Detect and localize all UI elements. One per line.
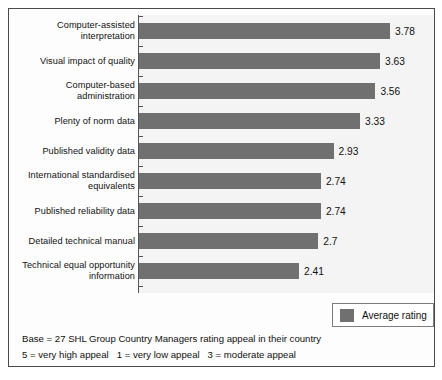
bar-value-label: 2.93: [339, 146, 359, 157]
axis-tick: [138, 256, 143, 257]
category-label: International standardised equivalents: [9, 170, 135, 191]
bar-row: Published validity data2.93: [9, 136, 434, 166]
category-label: Visual impact of quality: [9, 56, 135, 67]
chart-legend: Average rating: [332, 303, 434, 327]
chart-figure: Computer-assisted interpretation3.78Visu…: [8, 8, 435, 367]
bar: [139, 203, 321, 219]
bar: [139, 83, 375, 99]
bar: [139, 263, 299, 279]
bar-row: Plenty of norm data3.33: [9, 106, 434, 136]
bar: [139, 233, 318, 249]
category-label: Technical equal opportunity information: [9, 260, 135, 281]
bar-row: Published reliability data2.74: [9, 196, 434, 226]
bar-value-label: 2.41: [304, 266, 324, 277]
bar-value-label: 2.74: [326, 206, 346, 217]
bar-row: Detailed technical manual2.7: [9, 226, 434, 256]
bar-value-label: 3.56: [380, 86, 400, 97]
axis-tick: [138, 286, 143, 287]
bar-value-label: 3.78: [395, 26, 415, 37]
bar-row: Technical equal opportunity information2…: [9, 256, 434, 286]
axis-tick: [138, 106, 143, 107]
bar-row: Computer-based administration3.56: [9, 76, 434, 106]
bar-row: Visual impact of quality3.63: [9, 46, 434, 76]
footnote: Base = 27 SHL Group Country Managers rat…: [22, 331, 422, 363]
axis-tick: [138, 226, 143, 227]
bar-value-label: 3.63: [385, 56, 405, 67]
bar-value-label: 3.33: [365, 116, 385, 127]
plot-area: Computer-assisted interpretation3.78Visu…: [9, 9, 434, 299]
category-label: Plenty of norm data: [9, 116, 135, 127]
footnote-line-scale: 5 = very high appeal 1 = very low appeal…: [22, 347, 422, 363]
category-label: Published validity data: [9, 146, 135, 157]
bar: [139, 23, 390, 39]
bar-row: International standardised equivalents2.…: [9, 166, 434, 196]
bar: [139, 173, 321, 189]
axis-tick: [138, 46, 143, 47]
category-label: Detailed technical manual: [9, 236, 135, 247]
axis-tick: [138, 196, 143, 197]
axis-tick: [138, 136, 143, 137]
legend-swatch-average-rating: [340, 309, 354, 322]
axis-tick: [138, 76, 143, 77]
bar: [139, 113, 360, 129]
category-label: Computer-based administration: [9, 80, 135, 101]
bar: [139, 143, 334, 159]
bar-value-label: 2.7: [323, 236, 337, 247]
axis-tick: [138, 166, 143, 167]
bar-row: Computer-assisted interpretation3.78: [9, 16, 434, 46]
axis-tick: [138, 16, 143, 17]
legend-label-average-rating: Average rating: [362, 310, 427, 321]
bar-value-label: 2.74: [326, 176, 346, 187]
category-label: Published reliability data: [9, 206, 135, 217]
footnote-line-base: Base = 27 SHL Group Country Managers rat…: [22, 331, 422, 347]
category-label: Computer-assisted interpretation: [9, 20, 135, 41]
bar: [139, 53, 380, 69]
